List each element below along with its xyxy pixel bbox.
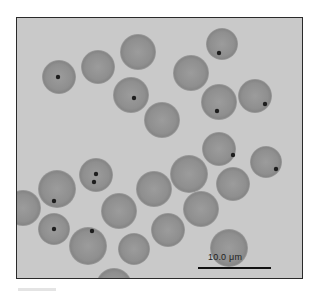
blood-cell bbox=[183, 191, 219, 227]
scale-bar-label: 10.0 μm bbox=[208, 252, 242, 262]
inclusion-dot bbox=[274, 167, 278, 171]
inclusion-dot bbox=[52, 227, 56, 231]
scale-bar bbox=[198, 267, 271, 269]
inclusion-dot bbox=[215, 109, 219, 113]
blood-cells-layer bbox=[17, 18, 303, 279]
blood-cell bbox=[202, 132, 236, 166]
inclusion-dot bbox=[92, 180, 96, 184]
blood-cell bbox=[238, 79, 272, 113]
blood-cell bbox=[144, 102, 180, 138]
blood-cell bbox=[170, 155, 208, 193]
footer-mark bbox=[18, 288, 56, 291]
blood-cell bbox=[38, 170, 76, 208]
blood-cell bbox=[118, 233, 150, 265]
blood-cell bbox=[17, 190, 41, 226]
blood-cell bbox=[42, 60, 76, 94]
blood-cell bbox=[173, 55, 209, 91]
inclusion-dot bbox=[90, 229, 94, 233]
inclusion-dot bbox=[263, 102, 267, 106]
inclusion-dot bbox=[56, 75, 60, 79]
blood-cell bbox=[136, 171, 172, 207]
blood-cell bbox=[79, 158, 113, 192]
inclusion-dot bbox=[52, 199, 56, 203]
blood-cell bbox=[151, 213, 185, 247]
inclusion-dot bbox=[132, 96, 136, 100]
blood-cell bbox=[101, 193, 137, 229]
blood-cell bbox=[120, 34, 156, 70]
inclusion-dot bbox=[94, 172, 98, 176]
blood-cell bbox=[201, 84, 237, 120]
blood-cell bbox=[69, 227, 107, 265]
blood-cell bbox=[216, 167, 250, 201]
blood-cell bbox=[250, 146, 282, 178]
blood-cell bbox=[96, 268, 132, 279]
blood-cell bbox=[81, 50, 115, 84]
blood-cell bbox=[38, 213, 70, 245]
micrograph-frame: 10.0 μm bbox=[16, 17, 303, 279]
inclusion-dot bbox=[231, 153, 235, 157]
blood-cell bbox=[206, 28, 238, 60]
inclusion-dot bbox=[217, 51, 221, 55]
blood-cell bbox=[113, 77, 149, 113]
